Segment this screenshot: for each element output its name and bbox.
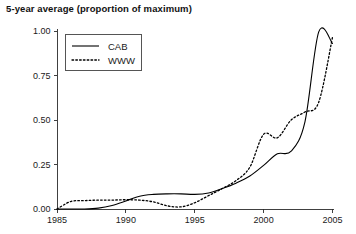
legend-label-www: WWW <box>108 55 135 66</box>
legend-label-cab: CAB <box>108 41 128 52</box>
x-tick-label: 1995 <box>185 215 205 225</box>
y-tick-label: 0.25 <box>33 160 51 170</box>
y-axis-ticks: 0.000.250.500.751.00 <box>33 26 57 214</box>
x-tick-label: 1990 <box>116 215 136 225</box>
y-tick-label: 0.75 <box>33 71 51 81</box>
chart-plot-area: 0.000.250.500.751.00 1985199019952000200… <box>0 0 356 234</box>
x-axis-ticks: 19851990199520002005 <box>47 209 343 225</box>
chart-figure: 5-year average (proportion of maximum) 0… <box>0 0 356 234</box>
chart-legend: CAB WWW <box>66 35 142 71</box>
x-tick-label: 2005 <box>322 215 342 225</box>
y-tick-label: 1.00 <box>33 26 51 36</box>
x-tick-label: 2000 <box>254 215 274 225</box>
y-tick-label: 0.50 <box>33 115 51 125</box>
x-tick-label: 1985 <box>47 215 67 225</box>
y-tick-label: 0.00 <box>33 204 51 214</box>
